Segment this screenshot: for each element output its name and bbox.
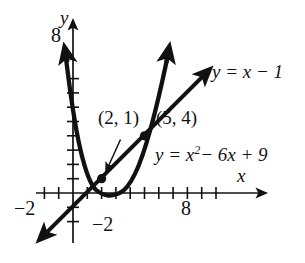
point-label-5-4: (5, 4) bbox=[156, 108, 197, 127]
parabola-equation-head: y = x bbox=[155, 144, 194, 165]
parabola-equation-tail: − 6x + 9 bbox=[200, 144, 267, 165]
graph-plot bbox=[0, 0, 305, 263]
line-equation-label: y = x − 1 bbox=[212, 62, 283, 81]
parabola-arrow-upper-left bbox=[65, 48, 68, 63]
marked-point-5-4 bbox=[140, 131, 149, 140]
marked-point-2-1 bbox=[97, 174, 106, 183]
curve-line-arrow-lower-left bbox=[40, 231, 49, 240]
x-axis-label: x bbox=[237, 166, 245, 185]
y-tick-label-8: 8 bbox=[51, 25, 61, 45]
figure-canvas: 8 −2 8 −2 y x (2, 1) (5, 4) y = x − 1 y … bbox=[0, 0, 305, 263]
parabola-equation-label: y = x2− 6x + 9 bbox=[155, 144, 268, 164]
parabola-arrow-upper-right bbox=[166, 47, 169, 63]
x-tick-label-minus-2: −2 bbox=[14, 198, 35, 218]
point-label-2-1: (2, 1) bbox=[98, 108, 139, 127]
x-tick-label-8: 8 bbox=[181, 198, 191, 218]
y-axis-label: y bbox=[60, 8, 68, 27]
y-tick-label-minus-2: −2 bbox=[92, 214, 113, 234]
